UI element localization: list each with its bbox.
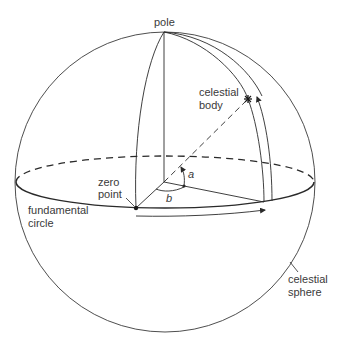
zero-point-pointer	[126, 198, 134, 206]
angle-b-arc	[156, 187, 184, 191]
label-angle-a: a	[188, 168, 194, 180]
label-celestial-body-2: body	[199, 99, 223, 111]
celestial-body-star-icon	[244, 95, 252, 103]
center-to-celestial-body	[164, 101, 246, 182]
label-celestial-sphere-2: sphere	[288, 286, 322, 298]
label-angle-b: b	[166, 192, 172, 204]
label-celestial-sphere-1: celestial	[288, 273, 328, 285]
label-zero-point-2: point	[98, 188, 122, 200]
center-to-foot-point	[164, 182, 264, 202]
zero-point-dot	[134, 206, 138, 210]
label-fundamental-circle-1: fundamental	[28, 204, 89, 216]
azimuth-arrow	[136, 210, 265, 216]
label-zero-point-1: zero	[98, 176, 119, 188]
label-celestial-body-1: celestial	[199, 86, 239, 98]
label-pole: pole	[154, 16, 175, 28]
fundamental-circle-back	[16, 156, 314, 182]
celestial-sphere-diagram: pole celestial body zero point fundament…	[0, 0, 338, 348]
center-to-zero-point	[136, 182, 164, 208]
meridian-zero-point	[136, 32, 164, 208]
altitude-arrow-arc	[257, 97, 272, 201]
diagram-canvas: pole celestial body zero point fundament…	[0, 0, 338, 348]
angle-a-arc	[181, 167, 184, 186]
celestial-sphere-pointer	[290, 262, 298, 272]
label-fundamental-circle-2: circle	[28, 217, 54, 229]
